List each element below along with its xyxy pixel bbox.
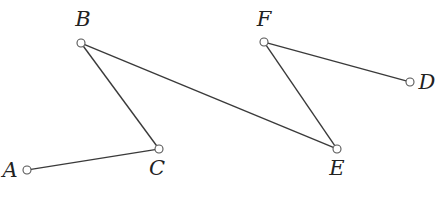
- point-label-b: B: [74, 7, 90, 31]
- point-b: [77, 39, 85, 47]
- point-c: [155, 145, 163, 153]
- geometry-diagram: ABCDEF: [0, 0, 445, 222]
- point-label-f: F: [256, 7, 273, 31]
- segments-group: [31, 43, 406, 169]
- segment-be: [85, 45, 334, 148]
- point-label-c: C: [149, 156, 165, 180]
- points-group: [23, 38, 414, 174]
- point-a: [23, 166, 31, 174]
- point-label-e: E: [328, 156, 344, 180]
- segment-ac: [31, 150, 155, 170]
- point-label-a: A: [0, 158, 17, 182]
- point-f: [260, 38, 268, 46]
- point-d: [406, 78, 414, 86]
- segment-cb: [83, 46, 156, 146]
- segment-fd: [268, 43, 406, 81]
- point-label-d: D: [418, 70, 436, 94]
- point-e: [333, 145, 341, 153]
- labels-group: ABCDEF: [0, 7, 435, 182]
- segment-ef: [266, 45, 334, 145]
